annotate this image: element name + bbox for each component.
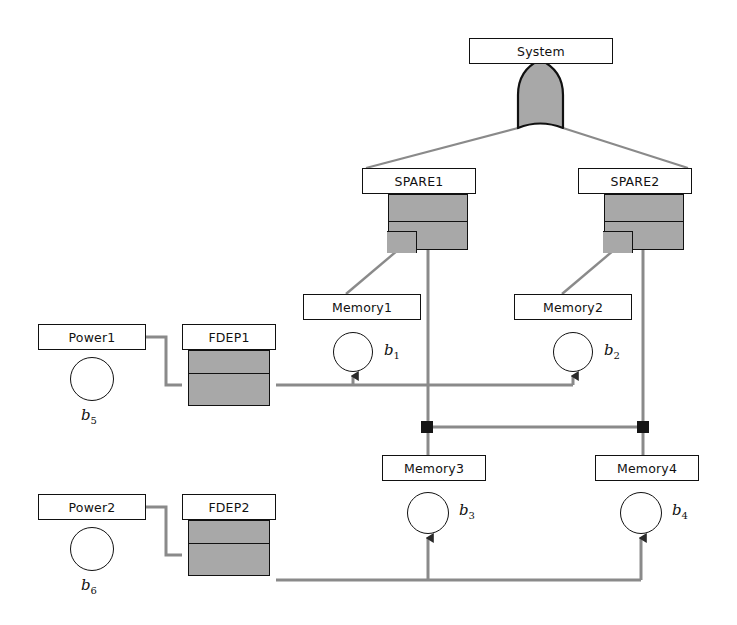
b5-subscript: 5 bbox=[91, 415, 97, 426]
node-spare2[interactable]: SPARE2 bbox=[578, 168, 692, 194]
b2-letter: b bbox=[604, 341, 614, 359]
b6-subscript: 6 bbox=[91, 585, 97, 596]
b4-letter: b bbox=[672, 501, 682, 519]
b5-letter: b bbox=[81, 406, 91, 424]
spare2-gate-body[interactable] bbox=[604, 194, 684, 250]
junction-left bbox=[421, 421, 433, 433]
fdep2-gate-body[interactable] bbox=[188, 520, 270, 576]
node-fdep2[interactable]: FDEP2 bbox=[182, 494, 276, 520]
basic-event-b3-circle[interactable] bbox=[407, 492, 449, 534]
node-memory1[interactable]: Memory1 bbox=[303, 294, 421, 320]
basic-event-b1-label: b1 bbox=[384, 341, 400, 361]
b1-letter: b bbox=[384, 341, 394, 359]
basic-event-b5-circle[interactable] bbox=[70, 357, 114, 401]
b3-letter: b bbox=[459, 501, 469, 519]
node-memory4-label: Memory4 bbox=[617, 461, 677, 476]
node-spare1-label: SPARE1 bbox=[395, 174, 444, 189]
node-fdep2-label: FDEP2 bbox=[208, 500, 249, 515]
node-memory1-label: Memory1 bbox=[332, 300, 392, 315]
spare1-gate-notch bbox=[387, 231, 417, 253]
basic-event-b2-label: b2 bbox=[604, 341, 620, 361]
edge-or-spare1 bbox=[366, 128, 518, 168]
b4-subscript: 4 bbox=[682, 510, 688, 521]
node-power2-label: Power2 bbox=[69, 500, 116, 515]
b6-letter: b bbox=[81, 576, 91, 594]
node-memory4[interactable]: Memory4 bbox=[595, 455, 699, 481]
spare2-gate-divider bbox=[605, 221, 683, 222]
edge-power1-fdep1 bbox=[146, 337, 182, 385]
fault-tree-diagram: System SPARE1 SPARE2 Memory1 Memory2 Mem… bbox=[0, 0, 737, 625]
node-spare2-label: SPARE2 bbox=[611, 174, 660, 189]
basic-event-b6-circle[interactable] bbox=[70, 527, 114, 571]
fdep1-gate-body[interactable] bbox=[188, 350, 270, 406]
spare1-gate-body[interactable] bbox=[388, 194, 468, 250]
node-fdep1[interactable]: FDEP1 bbox=[182, 324, 276, 350]
edge-or-spare2 bbox=[563, 128, 688, 168]
node-spare1[interactable]: SPARE1 bbox=[362, 168, 476, 194]
spare1-gate-divider bbox=[389, 221, 467, 222]
node-memory3[interactable]: Memory3 bbox=[382, 455, 486, 481]
basic-event-b3-label: b3 bbox=[459, 501, 475, 521]
edge-spare1-memory1 bbox=[346, 250, 398, 294]
spare2-gate-notch bbox=[603, 231, 633, 253]
junction-right bbox=[637, 421, 649, 433]
basic-event-b2-circle[interactable] bbox=[553, 332, 593, 372]
node-fdep1-label: FDEP1 bbox=[208, 330, 249, 345]
basic-event-b5-label: b5 bbox=[81, 406, 97, 426]
edge-spare2-memory2 bbox=[562, 250, 614, 294]
node-memory2-label: Memory2 bbox=[543, 300, 603, 315]
b1-subscript: 1 bbox=[394, 350, 400, 361]
node-system-label: System bbox=[517, 44, 565, 59]
node-power1[interactable]: Power1 bbox=[38, 324, 146, 350]
b2-subscript: 2 bbox=[614, 350, 620, 361]
basic-event-b1-circle[interactable] bbox=[333, 332, 373, 372]
basic-event-b4-label: b4 bbox=[672, 501, 688, 521]
node-memory3-label: Memory3 bbox=[404, 461, 464, 476]
or-gate[interactable] bbox=[518, 60, 563, 128]
fdep1-gate-divider bbox=[189, 373, 269, 374]
basic-event-b6-label: b6 bbox=[81, 576, 97, 596]
node-memory2[interactable]: Memory2 bbox=[514, 294, 632, 320]
basic-event-b4-circle[interactable] bbox=[620, 492, 662, 534]
node-power1-label: Power1 bbox=[69, 330, 116, 345]
fdep2-gate-divider bbox=[189, 543, 269, 544]
node-system[interactable]: System bbox=[469, 38, 613, 64]
edge-power2-fdep2 bbox=[146, 507, 182, 555]
b3-subscript: 3 bbox=[469, 510, 475, 521]
node-power2[interactable]: Power2 bbox=[38, 494, 146, 520]
